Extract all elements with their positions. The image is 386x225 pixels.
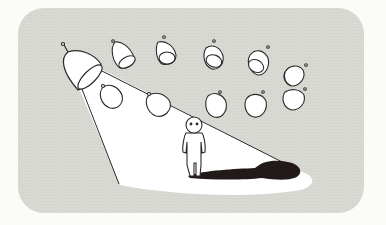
lamp-5: [284, 64, 307, 86]
illustration-scene: [0, 0, 386, 225]
lamp-2: [156, 36, 176, 65]
lamp-9: [245, 91, 266, 117]
lamp-8: [206, 91, 227, 118]
lamp-3: [204, 40, 224, 70]
lamp-1: [112, 40, 138, 71]
lamp-10: [283, 88, 306, 110]
lamp-4: [246, 46, 269, 75]
